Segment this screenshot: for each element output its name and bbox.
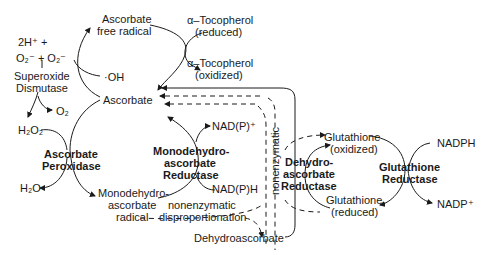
ascorbate-label: Ascorbate — [103, 94, 153, 106]
free-radical-loop — [150, 25, 186, 55]
ascorbate-free-radical-label-1: Ascorbate — [102, 13, 152, 25]
dhar-label-2: ascorbate — [283, 168, 335, 180]
ascorbate-peroxidase-label-2: Peroxidase — [42, 160, 101, 172]
tocopherol-oxidized-label-1: α–Tocopherol — [187, 57, 253, 69]
dehydroascorbate-label: Dehydroascorbate — [194, 232, 284, 244]
superoxide-dismutase-label-2: Dismutase — [16, 82, 68, 94]
nadph-label-1: NAD(P)H — [212, 183, 258, 195]
nadph-label-2: NADPH — [437, 137, 476, 149]
glutathione-reduced-label-2: (reduced) — [331, 206, 378, 218]
tocopherol-reduced-label-2: (reduced) — [195, 26, 242, 38]
mdhar-label-3: Reductase — [163, 169, 219, 181]
arrow-to-nadp-plus — [196, 126, 210, 142]
ascorbate-free-radical-label-2: free radical — [97, 25, 151, 37]
arrow-to-o2 — [38, 96, 52, 110]
mda-radical-label-2: ascorbate — [108, 199, 156, 211]
arrow-to-h2o2 — [28, 92, 38, 117]
nonenzymatic-vertical-label: nonenzymatic — [269, 127, 281, 195]
h2o-label: H₂O — [20, 182, 41, 194]
arrow-to-free-radical — [78, 28, 100, 97]
tocopherol-reduced-label-1: α–Tocopherol — [187, 14, 253, 26]
tocopherol-oxidized-label-2: (oxidized) — [195, 69, 243, 81]
glutathione-oxidized-label-1: Glutathione — [324, 131, 380, 143]
dashed-vertical-2 — [258, 106, 266, 245]
glutathione-oxidized-label-2: (oxidized) — [330, 143, 378, 155]
superoxide-reactants: 2H⁺ + — [18, 36, 48, 48]
apx-h2o2-in — [41, 130, 67, 150]
glutathione-reduced-label-1: Glutathione — [326, 194, 382, 206]
mda-radical-label-1: Monodehydro- — [98, 187, 169, 199]
arrow-to-ascorbate-from-toco — [158, 55, 185, 90]
hydroxyl-radical-label: ·OH — [104, 71, 124, 83]
h2o2-label: H₂O₂ — [18, 124, 43, 136]
o2-label: O₂ — [56, 105, 69, 117]
dashed-from-glutathione-red — [285, 200, 320, 212]
mdhar-label-2: ascorbate — [164, 157, 216, 169]
disproportionation-label: disproportionation — [159, 211, 246, 223]
ascorbate-peroxidase-label-1: Ascorbate — [44, 148, 98, 160]
superoxide-dismutase-label-1: Superoxide — [14, 70, 70, 82]
mdhar-label-1: Monodehydro- — [153, 145, 229, 157]
nadp-plus-label-2: NADP⁺ — [437, 198, 474, 210]
dhar-label-1: Dehydro- — [285, 156, 333, 168]
mda-radical-label-3: radical — [116, 211, 148, 223]
nadp-plus-label-1: NAD(P)⁺ — [212, 120, 256, 132]
glutathione-reductase-label-1: Glutathione — [379, 161, 440, 173]
nonenzymatic-label: nonenzymatic — [168, 199, 236, 211]
glutathione-reductase-label-2: Reductase — [382, 173, 438, 185]
superoxide-radicals: O₂⁻ + O₂⁻ — [16, 52, 66, 64]
dhar-label-3: Reductase — [281, 180, 337, 192]
